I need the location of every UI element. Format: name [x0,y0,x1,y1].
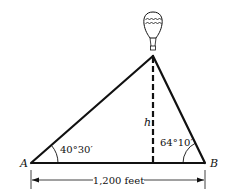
vertex-label-A: A [19,157,28,170]
balloon-icon [144,12,162,50]
height-label: h [144,116,151,129]
angle-label-B: 64°10′ [160,137,193,148]
triangle-diagram: A B 40°30′ 64°10′ h 1,200 feet [0,0,232,196]
angle-label-A: 40°30′ [60,144,93,155]
vertex-label-B: B [209,157,218,170]
base-dimension-label: 1,200 feet [93,175,144,186]
angle-arc-A [52,146,59,164]
